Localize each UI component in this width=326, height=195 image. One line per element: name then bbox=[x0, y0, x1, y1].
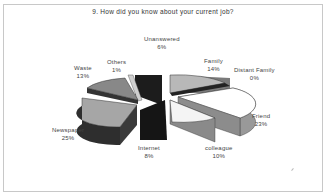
label-others: Others 1% bbox=[107, 58, 126, 74]
pie-chart bbox=[0, 0, 326, 195]
label-waste: Waste 13% bbox=[74, 64, 92, 80]
label-family: Family 14% bbox=[204, 57, 223, 73]
label-unanswered: Unanswered 6% bbox=[144, 35, 180, 51]
label-friend: Friend 23% bbox=[252, 112, 270, 128]
label-newspaper: Newspaper 25% bbox=[52, 126, 84, 142]
label-distant-family: Distant Family 0% bbox=[234, 66, 275, 82]
label-colleague: colleague 10% bbox=[205, 144, 233, 160]
slice-newspaper bbox=[77, 98, 137, 145]
slice-internet bbox=[140, 100, 167, 140]
label-internet: Internet 8% bbox=[138, 144, 160, 160]
